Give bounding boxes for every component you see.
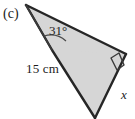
angle-label-31deg: 31° [49,24,67,37]
geometry-figure: (c) 31° 15 cm x [0,0,135,119]
side-label-x: x [121,88,127,101]
part-label: (c) [3,7,19,21]
side-label-15cm: 15 cm [26,62,59,75]
triangle-diagram-svg [0,0,135,119]
